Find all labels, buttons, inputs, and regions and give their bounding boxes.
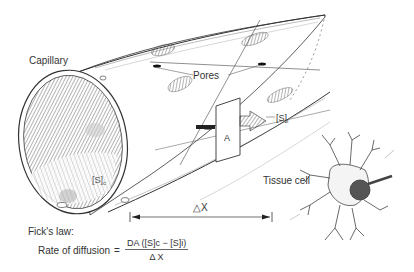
tissue-cell-label: Tissue cell	[263, 176, 310, 186]
formula-fraction: DA ([S]c − [S]i) Δ X	[125, 238, 188, 262]
formula-equals: =	[114, 245, 120, 256]
tissue-cell	[300, 132, 392, 240]
formula-title: Fick's law:	[28, 226, 188, 237]
formula-numerator: DA ([S]c − [S]i)	[125, 238, 188, 250]
pores-label: Pores	[193, 71, 219, 81]
sc-label: [S]c	[92, 176, 106, 186]
area-plane	[216, 98, 240, 162]
distance-arrow	[130, 212, 272, 222]
formula-lhs: Rate of diffusion	[38, 245, 110, 256]
si-label: [S]i	[276, 114, 288, 124]
formula-denominator: Δ X	[150, 250, 164, 262]
capillary-label: Capillary	[29, 56, 68, 66]
area-label: A	[224, 134, 230, 143]
ficks-law-formula: Fick's law: Rate of diffusion = DA ([S]c…	[28, 226, 188, 262]
delta-x-label: △X	[193, 203, 208, 213]
